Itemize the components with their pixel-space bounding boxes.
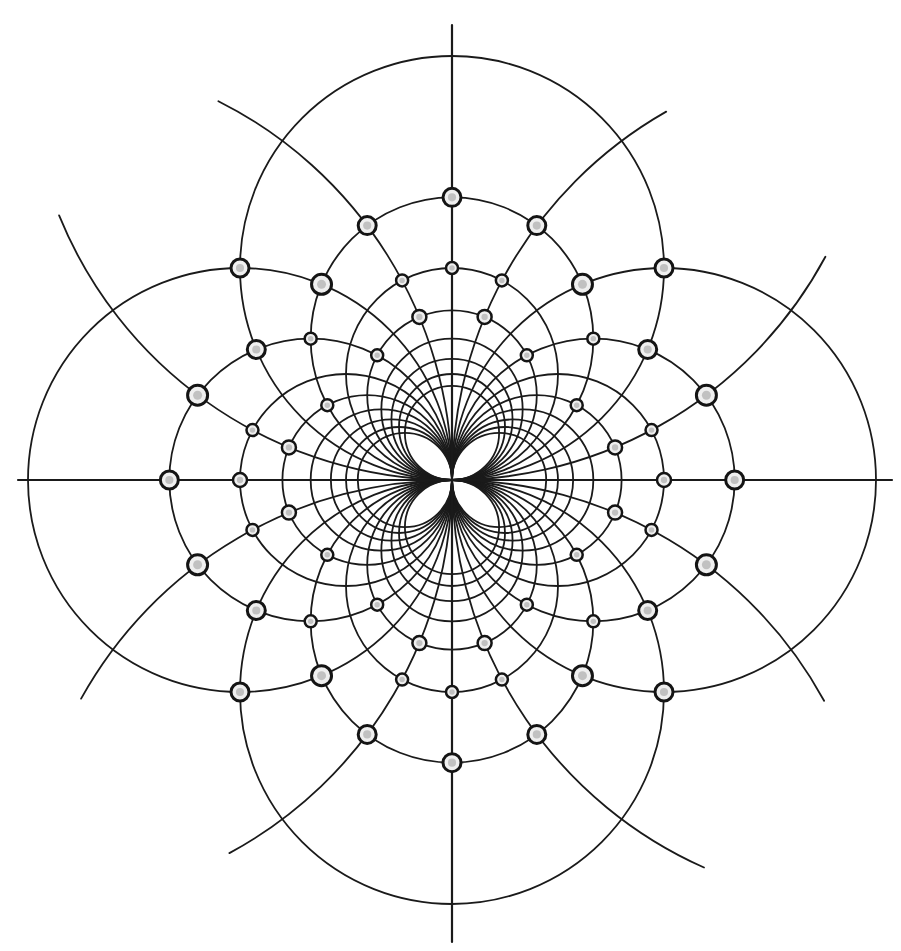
- bead: [282, 440, 296, 454]
- bead: [696, 555, 716, 575]
- bead: [312, 274, 332, 294]
- bead: [655, 259, 673, 277]
- bead: [571, 399, 583, 411]
- bead: [521, 599, 533, 611]
- bead: [587, 333, 599, 345]
- bead: [657, 473, 671, 487]
- bead: [246, 424, 258, 436]
- bead: [231, 259, 249, 277]
- bead: [247, 341, 265, 359]
- bead: [528, 725, 546, 743]
- bead: [371, 349, 383, 361]
- bead: [572, 666, 592, 686]
- bead: [305, 615, 317, 627]
- bead: [655, 683, 673, 701]
- bead: [443, 188, 461, 206]
- bead: [528, 217, 546, 235]
- bead: [446, 262, 458, 274]
- bead: [312, 666, 332, 686]
- bead: [572, 274, 592, 294]
- bead: [412, 636, 426, 650]
- axes: [18, 25, 892, 942]
- bead: [358, 217, 376, 235]
- bead: [160, 471, 178, 489]
- bead: [282, 506, 296, 520]
- bead: [443, 754, 461, 772]
- bead: [247, 601, 265, 619]
- bead: [358, 725, 376, 743]
- dipole-field-diagram: [0, 0, 901, 951]
- bead: [412, 310, 426, 324]
- bead: [639, 601, 657, 619]
- bead: [478, 310, 492, 324]
- bead: [396, 674, 408, 686]
- bead: [587, 615, 599, 627]
- bead: [478, 636, 492, 650]
- bead: [639, 341, 657, 359]
- bead: [396, 274, 408, 286]
- bead: [521, 349, 533, 361]
- bead: [188, 555, 208, 575]
- bead: [608, 440, 622, 454]
- bead: [696, 385, 716, 405]
- bead: [321, 549, 333, 561]
- bead: [371, 599, 383, 611]
- bead: [571, 549, 583, 561]
- bead: [233, 473, 247, 487]
- bead: [646, 524, 658, 536]
- bead: [305, 333, 317, 345]
- bead: [231, 683, 249, 701]
- bead: [608, 506, 622, 520]
- bead: [726, 471, 744, 489]
- bead: [321, 399, 333, 411]
- bead: [246, 524, 258, 536]
- bead: [188, 385, 208, 405]
- bead: [446, 686, 458, 698]
- diagram-canvas: [0, 0, 901, 951]
- bead: [646, 424, 658, 436]
- bead: [496, 674, 508, 686]
- bead: [496, 274, 508, 286]
